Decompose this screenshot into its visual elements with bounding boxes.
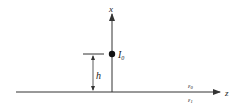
current-source-label: I0 [117, 49, 124, 61]
height-arrow-down-icon [91, 86, 95, 91]
height-arrow-up-icon [91, 55, 95, 60]
x-axis-label: x [108, 4, 113, 14]
upper-medium-label: ε0 [188, 83, 193, 90]
height-label: h [96, 70, 101, 81]
diagram-canvas: z x I0 h ε0 ε1 [0, 0, 240, 111]
current-source-dot [109, 51, 115, 57]
lower-medium-label: ε1 [188, 97, 193, 104]
z-axis-label: z [224, 88, 229, 98]
